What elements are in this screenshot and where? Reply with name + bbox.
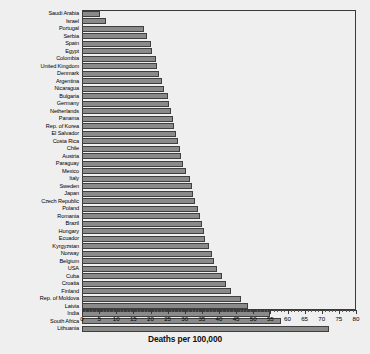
x-tick-minor — [157, 310, 158, 312]
bar-track — [82, 130, 356, 138]
bar — [82, 228, 204, 234]
bar-track — [82, 25, 356, 33]
x-tick-minor — [325, 310, 326, 312]
category-label: Panama — [0, 115, 79, 123]
bar-track — [82, 78, 356, 86]
category-label: Serbia — [0, 33, 79, 41]
category-label: Italy — [0, 175, 79, 183]
bar-track — [82, 123, 356, 131]
bar-track — [82, 295, 356, 303]
x-tick-label: 20 — [147, 315, 154, 322]
category-label: Rep. of Moldova — [0, 295, 79, 303]
bar-row: Panama — [0, 115, 370, 123]
category-label: Croatia — [0, 280, 79, 288]
bar-row: Mexico — [0, 168, 370, 176]
x-tick-minor — [257, 310, 258, 312]
x-tick-label: 35 — [198, 315, 205, 322]
x-tick-minor — [315, 310, 316, 312]
x-tick-minor — [195, 310, 196, 312]
category-label: United Kingdom — [0, 63, 79, 71]
x-tick-label: 80 — [353, 315, 360, 322]
category-label: Netherlands — [0, 108, 79, 116]
x-tick-label: 75 — [335, 315, 342, 322]
x-tick-minor — [198, 310, 199, 312]
bar-track — [82, 258, 356, 266]
bar-track — [82, 220, 356, 228]
bar-row: Hungary — [0, 228, 370, 236]
bar-track — [82, 100, 356, 108]
bar-row: Ecuador — [0, 235, 370, 243]
x-tick-minor — [171, 310, 172, 312]
bar — [82, 71, 159, 77]
bar — [82, 176, 190, 182]
bar — [82, 108, 171, 114]
bar-row: Poland — [0, 205, 370, 213]
category-label: Latvia — [0, 303, 79, 311]
category-label: Chile — [0, 145, 79, 153]
bar — [82, 281, 226, 287]
bar — [82, 56, 156, 62]
x-tick-major — [305, 310, 306, 314]
bar — [82, 206, 198, 212]
category-label: Bulgaria — [0, 93, 79, 101]
x-tick-minor — [250, 310, 251, 312]
x-tick-major — [253, 310, 254, 314]
bar-track — [82, 33, 356, 41]
x-tick-label: 40 — [216, 315, 223, 322]
bar-row: Germany — [0, 100, 370, 108]
category-label: Romania — [0, 213, 79, 221]
bar-track — [82, 48, 356, 56]
x-tick-minor — [233, 310, 234, 312]
x-tick-minor — [332, 310, 333, 312]
bar-row: Paraguay — [0, 160, 370, 168]
x-tick-minor — [284, 310, 285, 312]
bar — [82, 161, 183, 167]
x-tick-major — [270, 310, 271, 314]
bar — [82, 273, 222, 279]
bar-chart: Saudi ArabiaIsraelPortugalSerbiaSpainEgy… — [0, 0, 370, 354]
bar-row: Sweden — [0, 183, 370, 191]
x-tick-major — [168, 310, 169, 314]
category-label: Brazil — [0, 220, 79, 228]
category-label: Nicaragua — [0, 85, 79, 93]
bar-row: Portugal — [0, 25, 370, 33]
bar-track — [82, 160, 356, 168]
category-label: Rep. of Korea — [0, 123, 79, 131]
x-tick-label: 5 — [97, 315, 100, 322]
category-label: Spain — [0, 40, 79, 48]
x-tick-label: 45 — [233, 315, 240, 322]
x-tick-minor — [181, 310, 182, 312]
x-tick-minor — [335, 310, 336, 312]
category-label: Portugal — [0, 25, 79, 33]
category-label: Denmark — [0, 70, 79, 78]
x-tick-label: 15 — [130, 315, 137, 322]
bar-row: Japan — [0, 190, 370, 198]
category-label: Belgium — [0, 258, 79, 266]
bar-track — [82, 85, 356, 93]
x-tick-minor — [164, 310, 165, 312]
bar-row: Czech Republic — [0, 198, 370, 206]
bar-track — [82, 153, 356, 161]
bar-row: Rep. of Moldova — [0, 295, 370, 303]
x-tick-minor — [267, 310, 268, 312]
x-tick-minor — [353, 310, 354, 312]
x-tick-minor — [85, 310, 86, 312]
x-tick-major — [116, 310, 117, 314]
bar — [82, 213, 200, 219]
category-label: Japan — [0, 190, 79, 198]
x-tick-label: 0 — [80, 315, 83, 322]
x-tick-major — [82, 310, 83, 314]
bar-row: Saudi Arabia — [0, 10, 370, 18]
bar-track — [82, 273, 356, 281]
x-tick-minor — [123, 310, 124, 312]
x-tick-minor — [246, 310, 247, 312]
x-tick-major — [236, 310, 237, 314]
category-label: Sweden — [0, 183, 79, 191]
bar-row: United Kingdom — [0, 63, 370, 71]
x-tick-minor — [144, 310, 145, 312]
bar — [82, 11, 100, 17]
bar-track — [82, 108, 356, 116]
bar-track — [82, 288, 356, 296]
category-label: Norway — [0, 250, 79, 258]
bar-track — [82, 183, 356, 191]
